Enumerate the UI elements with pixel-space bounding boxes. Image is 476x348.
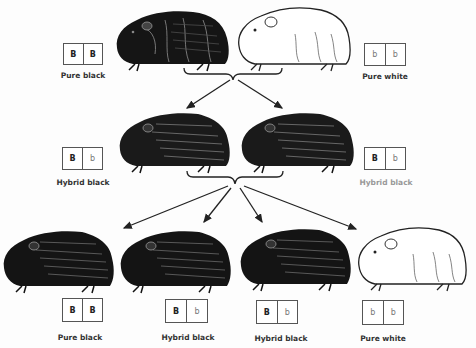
guinea-pig-f1-1 — [116, 110, 234, 174]
guinea-pig-f2-pure-white — [355, 224, 469, 292]
genotype-box-f2-3: B b — [256, 300, 298, 324]
guinea-pig-f1-2 — [238, 110, 358, 174]
genotype-box-f2-2: B b — [165, 299, 208, 323]
genotype-box-f1-left: B b — [62, 147, 103, 170]
label-parent-black: Pure black — [61, 71, 106, 80]
allele: B — [257, 301, 277, 323]
allele: b — [363, 301, 383, 324]
label-f1-right: Hybrid black — [359, 178, 412, 187]
label-f2-4: Pure white — [360, 334, 406, 343]
allele: B — [64, 44, 83, 64]
allele: b — [82, 148, 102, 169]
arrow-to-f1-right — [238, 80, 282, 108]
genotype-box-f2-1: B B — [62, 298, 103, 322]
allele: B — [166, 300, 186, 322]
allele: b — [383, 301, 404, 324]
arrow-to-f2-2 — [204, 188, 231, 222]
allele: B — [63, 299, 82, 321]
genotype-box-parent-black: B B — [63, 43, 103, 65]
guinea-pig-f2-pure-black — [0, 228, 118, 294]
guinea-pig-f2-hybrid-black-2 — [237, 226, 355, 292]
guinea-pig-white-parent — [235, 4, 353, 74]
guinea-pig-f2-hybrid-black-1 — [117, 228, 235, 294]
allele: b — [385, 148, 406, 169]
genotype-box-parent-white: b b — [364, 43, 406, 66]
guinea-pig-black-parent — [113, 6, 233, 74]
genetics-diagram: B B Pure black b b Pure white B b Hybrid… — [0, 0, 476, 348]
genotype-box-f1-right: B b — [364, 147, 406, 170]
allele: B — [365, 148, 385, 169]
genotype-box-f2-4: b b — [362, 300, 404, 325]
label-parent-white: Pure white — [362, 72, 408, 81]
allele: B — [83, 44, 103, 64]
allele: b — [186, 300, 207, 322]
label-f2-2: Hybrid black — [161, 333, 214, 342]
label-f2-3: Hybrid black — [254, 334, 307, 343]
allele: B — [82, 299, 102, 321]
label-f1-left: Hybrid black — [56, 178, 109, 187]
arrow-to-f2-1 — [124, 186, 228, 228]
allele: b — [277, 301, 298, 323]
label-f2-1: Pure black — [58, 333, 103, 342]
allele: b — [365, 44, 385, 65]
allele: B — [63, 148, 82, 169]
allele: b — [385, 44, 406, 65]
arrow-to-f2-3 — [240, 188, 262, 222]
arrow-to-f2-4 — [244, 186, 356, 229]
arrow-to-f1-left — [187, 80, 230, 108]
